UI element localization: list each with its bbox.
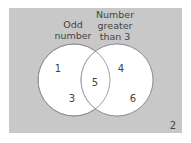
- member-3: 3: [69, 93, 75, 104]
- member-4: 4: [118, 63, 124, 74]
- member-2-outside: 2: [170, 120, 176, 131]
- greater-than-3-label: Number greater than 3: [88, 9, 142, 42]
- member-6: 6: [130, 93, 136, 104]
- label-line: than 3: [88, 31, 142, 42]
- label-line: Number: [88, 9, 142, 20]
- member-5: 5: [92, 77, 98, 88]
- member-1: 1: [55, 63, 61, 74]
- label-line: greater: [88, 20, 142, 31]
